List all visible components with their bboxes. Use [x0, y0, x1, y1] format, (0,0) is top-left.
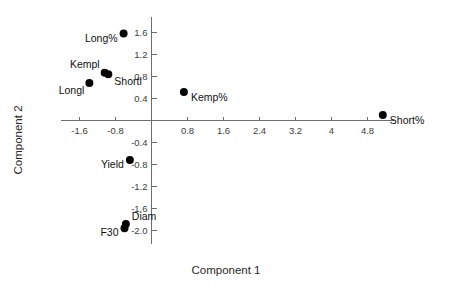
x-axis-title: Component 1	[191, 264, 260, 276]
x-tick-label: 2.4	[253, 125, 266, 136]
y-tick-label: -1.2	[131, 181, 147, 192]
x-tick-label: -1.6	[71, 125, 87, 136]
y-tick-label: -0.4	[131, 137, 147, 148]
y-axis-title: Component 2	[12, 105, 24, 174]
y-tick-label: 1.2	[134, 49, 147, 60]
data-point	[121, 224, 129, 232]
x-tick-label: 0.8	[181, 125, 194, 136]
data-point-label: Yield	[101, 158, 124, 170]
plot-canvas: -1.6-0.80.81.62.43.244.81.61.20.80.4-0.4…	[0, 0, 452, 286]
x-tick-label: 3.2	[289, 125, 302, 136]
x-tick-label: 4.8	[361, 125, 374, 136]
data-point-label: F30	[100, 226, 118, 238]
data-points-layer	[85, 30, 386, 233]
data-point-label: Long%	[85, 32, 118, 44]
data-point	[104, 70, 112, 78]
x-tick-label: 4	[329, 125, 334, 136]
tick-labels-layer: -1.6-0.80.81.62.43.244.81.61.20.80.4-0.4…	[71, 27, 374, 236]
scatter-plot-figure: -1.6-0.80.81.62.43.244.81.61.20.80.4-0.4…	[0, 0, 452, 286]
data-point	[379, 111, 387, 119]
y-tick-label: 1.6	[134, 27, 147, 38]
x-tick-label: -0.8	[107, 125, 123, 136]
data-point	[180, 88, 188, 96]
data-point	[85, 79, 93, 87]
data-point	[126, 156, 134, 164]
data-point-label: Kemp%	[191, 91, 228, 103]
data-point-label: Short%	[390, 114, 424, 126]
data-point-label: Shortl	[114, 75, 141, 87]
y-tick-label: -2.0	[131, 225, 147, 236]
data-point-label: Diam	[132, 210, 157, 222]
data-point-label: Longl	[59, 84, 85, 96]
x-tick-label: 1.6	[217, 125, 230, 136]
data-point-label: Kempl	[70, 58, 100, 70]
y-tick-label: 0.4	[134, 93, 147, 104]
data-point	[120, 30, 128, 38]
